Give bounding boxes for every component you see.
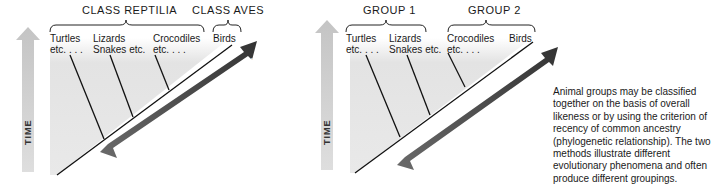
time-label: TIME xyxy=(322,120,332,146)
group-label-2: GROUP 2 xyxy=(468,4,521,16)
taxon-lizards-snakes: Lizards Snakes etc. xyxy=(93,33,145,55)
taxon-name: Crocodiles xyxy=(447,33,494,44)
taxon-name: Lizards xyxy=(389,33,441,44)
taxon-name: Lizards xyxy=(93,33,145,44)
taxon-subtext: etc. . . . xyxy=(447,44,494,55)
taxon-subtext: etc. . . . xyxy=(50,44,83,55)
taxon-turtles: Turtles etc. . . . xyxy=(50,33,83,55)
group-label-1: GROUP 1 xyxy=(363,4,416,16)
taxon-subtext: etc. . . . xyxy=(346,44,379,55)
group-label-aves: CLASS AVES xyxy=(192,4,264,16)
taxon-crocodiles: Crocodiles etc. . . . xyxy=(153,33,200,55)
taxon-turtles: Turtles etc. . . . xyxy=(346,33,379,55)
taxon-birds: Birds xyxy=(509,33,532,44)
taxon-lizards-snakes: Lizards Snakes etc. xyxy=(389,33,441,55)
time-arrow-icon xyxy=(315,20,339,170)
right-cladogram-groups: TIME MORPHOLOGICAL DIVERGENCE GROUP 1 GR… xyxy=(300,0,580,190)
taxon-birds: Birds xyxy=(213,33,236,44)
taxon-subtext: etc. . . . xyxy=(153,44,200,55)
time-arrow-icon xyxy=(16,27,40,172)
taxon-name: Birds xyxy=(213,33,236,44)
group-braces xyxy=(346,20,535,32)
left-cladogram-reptilia-aves: TIME MORPHOLOGICAL DIVERGENCE CLASS REPT… xyxy=(0,0,340,190)
brace-group-1 xyxy=(346,20,426,32)
taxon-name: Crocodiles xyxy=(153,33,200,44)
figure-caption: Animal groups may be classified together… xyxy=(553,86,720,185)
left-diagram-canvas: TIME MORPHOLOGICAL DIVERGENCE xyxy=(0,0,340,190)
group-label-reptilia: CLASS REPTILIA xyxy=(82,4,177,16)
taxon-name: Birds xyxy=(509,33,532,44)
taxon-subtext: Snakes etc. xyxy=(389,44,441,55)
taxon-crocodiles: Crocodiles etc. . . . xyxy=(447,33,494,55)
time-label: TIME xyxy=(23,120,33,146)
taxon-name: Turtles xyxy=(346,33,379,44)
brace-group-2 xyxy=(448,20,535,32)
taxon-name: Turtles xyxy=(50,33,83,44)
shaded-region xyxy=(50,38,230,175)
brace-aves xyxy=(213,20,241,32)
group-braces xyxy=(50,20,241,32)
right-diagram-canvas: TIME MORPHOLOGICAL DIVERGENCE xyxy=(300,0,580,190)
taxon-subtext: Snakes etc. xyxy=(93,44,145,55)
brace-reptilia xyxy=(50,20,204,32)
